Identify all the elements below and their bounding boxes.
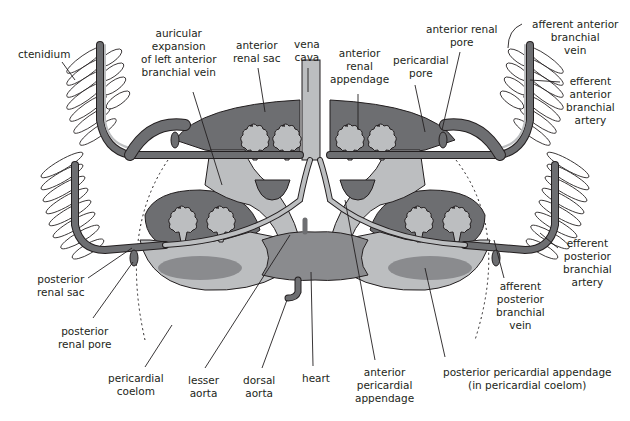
- label-anterior-pericardial-appendage: anterior pericardial appendage: [355, 366, 414, 405]
- label-pericardial-pore: pericardial pore: [393, 54, 449, 80]
- label-afferent-anterior-branchial-vein: afferent anterior branchial vein: [532, 18, 618, 57]
- label-pericardial-coelom: pericardial coelom: [108, 372, 164, 398]
- label-efferent-anterior-branchial-artery: efferent anterior branchial artery: [566, 75, 615, 127]
- label-afferent-posterior-branchial-vein: afferent posterior branchial vein: [496, 280, 545, 332]
- label-dorsal-aorta: dorsal aorta: [243, 374, 275, 400]
- label-anterior-renal-appendage: anterior renal appendage: [330, 47, 389, 86]
- label-auricular-expansion: auricular expansion of left anterior bra…: [141, 27, 216, 79]
- label-ctenidium: ctenidium: [18, 48, 70, 61]
- label-efferent-posterior-branchial-artery: efferent posterior branchial artery: [563, 237, 612, 289]
- label-posterior-renal-pore: posterior renal pore: [58, 325, 112, 351]
- label-posterior-pericardial-appendage: posterior pericardial appendage (in peri…: [443, 366, 612, 392]
- posterior-pericardial-appendage-right: [388, 256, 472, 280]
- label-vena-cava: vena cava: [294, 38, 320, 64]
- posterior-renal-pore-left: [130, 250, 138, 266]
- vena-cava: [302, 60, 320, 160]
- anterior-renal-pore-right: [439, 132, 447, 148]
- label-anterior-renal-sac: anterior renal sac: [233, 39, 281, 65]
- label-posterior-renal-sac: posterior renal sac: [37, 273, 85, 299]
- anterior-renal-pore-left: [171, 132, 179, 148]
- posterior-pericardial-appendage-left: [158, 256, 242, 280]
- label-heart: heart: [302, 372, 330, 385]
- label-anterior-renal-pore: anterior renal pore: [426, 23, 498, 49]
- label-lesser-aorta: lesser aorta: [188, 374, 219, 400]
